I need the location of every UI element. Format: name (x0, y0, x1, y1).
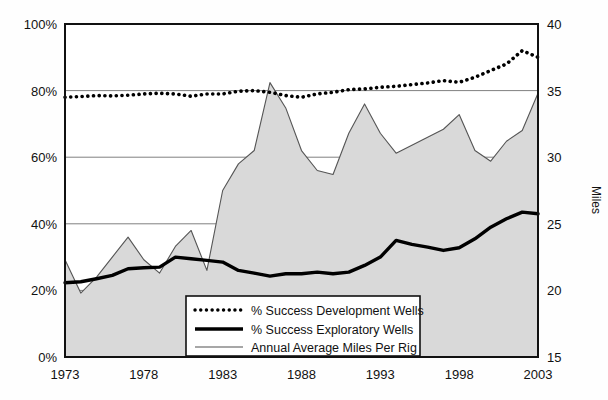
right-tick-label: 15 (547, 350, 561, 365)
right-tick-label: 35 (547, 84, 561, 99)
left-tick-label: 60% (31, 150, 57, 165)
bottom-tick-label: 2003 (524, 367, 553, 382)
left-tick-label: 40% (31, 217, 57, 232)
bottom-tick-label: 1988 (287, 367, 316, 382)
right-tick-label: 30 (547, 150, 561, 165)
left-tick-label: 0% (38, 350, 57, 365)
legend-label-exploratory-wells: % Success Exploratory Wells (251, 323, 413, 337)
right-axis-title: Miles (589, 186, 603, 214)
right-tick-label: 40 (547, 17, 561, 32)
left-tick-label: 20% (31, 283, 57, 298)
right-tick-label: 20 (547, 283, 561, 298)
bottom-tick-label: 1983 (208, 367, 237, 382)
bottom-tick-label: 1973 (51, 367, 80, 382)
legend-label-annual-average-miles: Annual Average Miles Per Rig (251, 341, 417, 355)
bottom-tick-label: 1998 (445, 367, 474, 382)
left-tick-label: 100% (24, 17, 58, 32)
legend-label-development-wells: % Success Development Wells (251, 304, 424, 318)
bottom-tick-label: 1978 (129, 367, 158, 382)
chart-container: 0%20%40%60%80%100% 152025303540 19731978… (0, 0, 608, 400)
right-tick-label: 25 (547, 217, 561, 232)
chart-legend: % Success Development Wells % Success Ex… (186, 296, 424, 356)
left-tick-label: 80% (31, 84, 57, 99)
bottom-tick-label: 1993 (366, 367, 395, 382)
line-chart: 0%20%40%60%80%100% 152025303540 19731978… (0, 0, 608, 400)
